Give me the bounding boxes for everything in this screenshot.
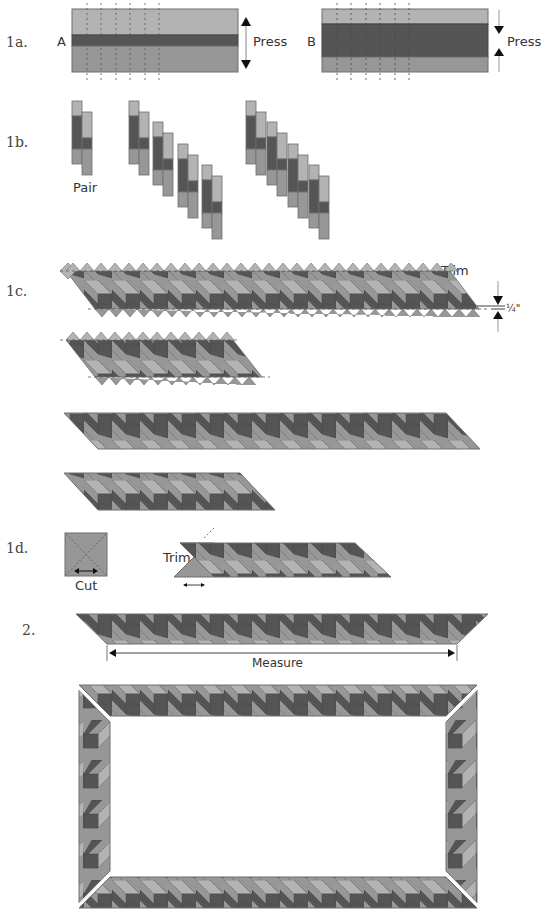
press-arrow-a — [241, 17, 251, 69]
long-braid-strip-untrimmed — [60, 263, 487, 317]
measured-border-strip — [76, 614, 488, 661]
strip-set-a — [72, 3, 238, 82]
border-frame — [78, 685, 478, 908]
strip-set-b — [322, 3, 488, 82]
cut-square — [65, 533, 107, 576]
pair-segments — [72, 101, 92, 175]
pair-cascade — [129, 101, 222, 239]
quilt-instructions-diagram — [0, 0, 547, 909]
short-braid-strip-trimmed — [64, 473, 275, 510]
pair-sewn-strip — [246, 101, 329, 239]
trimmed-end-strip — [174, 527, 391, 587]
press-arrow-b — [494, 10, 504, 72]
quarter-inch-marker — [477, 281, 505, 332]
short-braid-strip-untrimmed — [60, 332, 270, 385]
long-braid-strip-trimmed — [64, 413, 480, 449]
